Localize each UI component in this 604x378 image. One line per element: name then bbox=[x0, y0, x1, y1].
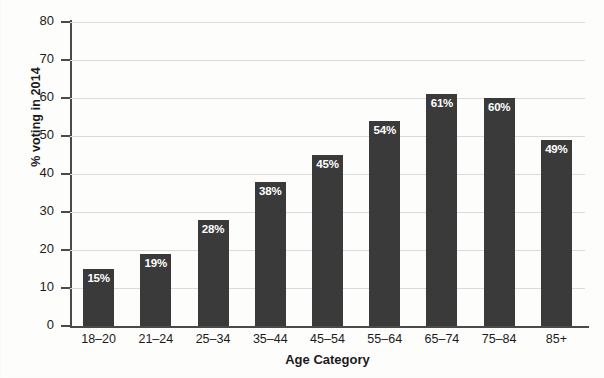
x-axis-title: Age Category bbox=[70, 352, 585, 367]
y-tick-mark bbox=[61, 173, 70, 175]
x-tick-label: 85+ bbox=[516, 332, 596, 346]
y-tick-mark bbox=[61, 211, 70, 213]
gridline bbox=[70, 60, 585, 61]
y-tick-mark bbox=[61, 287, 70, 289]
bar-value-label: 15% bbox=[83, 272, 114, 284]
bar[interactable]: 54% bbox=[369, 121, 400, 326]
bar-value-label: 61% bbox=[426, 97, 457, 109]
bar-value-label: 60% bbox=[484, 101, 515, 113]
y-tick-mark bbox=[61, 135, 70, 137]
y-tick-label: 20 bbox=[20, 241, 54, 256]
bar[interactable]: 15% bbox=[83, 269, 114, 326]
bar[interactable]: 38% bbox=[255, 182, 286, 326]
bar-value-label: 49% bbox=[541, 143, 572, 155]
gridline bbox=[70, 22, 585, 23]
y-tick-label: 60 bbox=[20, 89, 54, 104]
y-tick-mark bbox=[61, 249, 70, 251]
y-tick-label: 70 bbox=[20, 51, 54, 66]
x-axis-line bbox=[70, 326, 589, 328]
bar-value-label: 19% bbox=[140, 257, 171, 269]
bar[interactable]: 49% bbox=[541, 140, 572, 326]
y-tick-label: 30 bbox=[20, 203, 54, 218]
bar-value-label: 45% bbox=[312, 158, 343, 170]
bar[interactable]: 28% bbox=[198, 220, 229, 326]
bar-value-label: 54% bbox=[369, 124, 400, 136]
y-tick-label: 10 bbox=[20, 279, 54, 294]
y-tick-label: 50 bbox=[20, 127, 54, 142]
bar[interactable]: 19% bbox=[140, 254, 171, 326]
plot-area: 15%19%28%38%45%54%61%60%49% bbox=[70, 22, 585, 326]
bar-chart: % voting in 2014 15%19%28%38%45%54%61%60… bbox=[0, 0, 604, 378]
bar[interactable]: 60% bbox=[484, 98, 515, 326]
y-tick-mark bbox=[61, 325, 70, 327]
bar-value-label: 28% bbox=[198, 223, 229, 235]
y-tick-mark bbox=[61, 59, 70, 61]
bar[interactable]: 45% bbox=[312, 155, 343, 326]
bar[interactable]: 61% bbox=[426, 94, 457, 326]
y-tick-mark bbox=[61, 21, 70, 23]
y-tick-label: 80 bbox=[20, 13, 54, 28]
bar-value-label: 38% bbox=[255, 185, 286, 197]
y-tick-label: 0 bbox=[20, 317, 54, 332]
y-tick-label: 40 bbox=[20, 165, 54, 180]
y-tick-mark bbox=[61, 97, 70, 99]
